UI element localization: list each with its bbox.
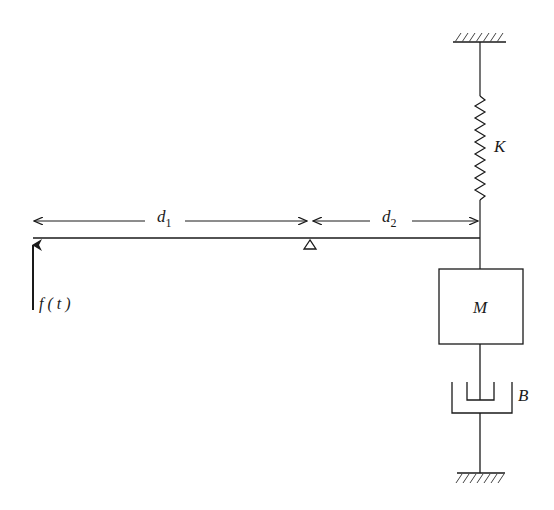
ground-top <box>453 33 506 42</box>
label-d2: d2 <box>382 208 397 229</box>
label-d1: d1 <box>157 208 172 229</box>
label-spring-k: K <box>494 138 505 155</box>
spring <box>475 42 485 269</box>
label-force: f ( t ) <box>39 296 71 312</box>
label-mass-m: M <box>473 299 487 316</box>
ground-bottom <box>456 473 505 483</box>
diagram-svg <box>0 0 554 510</box>
damper <box>452 344 512 473</box>
label-damper-b: B <box>518 387 528 404</box>
pivot-icon <box>304 240 316 249</box>
diagram-canvas: d1 d2 K M B f ( t ) <box>0 0 554 510</box>
